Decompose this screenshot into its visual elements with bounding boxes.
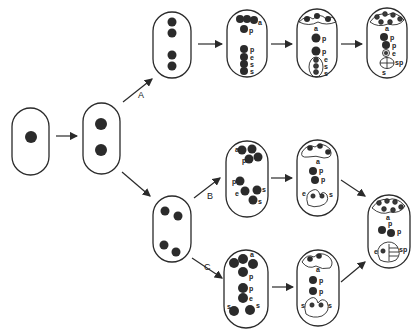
svg-text:s: s <box>324 63 328 70</box>
svg-text:p: p <box>392 42 396 50</box>
stage-two-nucleate <box>83 103 120 174</box>
pathway-label-c: C <box>204 262 211 272</box>
stage-a-four-nucleate <box>153 12 191 78</box>
svg-text:a: a <box>385 25 389 32</box>
stage-b-cellular: a p p e s <box>297 140 338 216</box>
svg-text:a: a <box>250 251 254 258</box>
svg-text:e: e <box>235 190 239 197</box>
arrow-to-bc <box>122 172 150 196</box>
svg-text:s: s <box>250 68 254 75</box>
svg-text:a: a <box>314 25 318 32</box>
svg-text:e: e <box>250 54 254 61</box>
svg-text:s: s <box>250 61 254 68</box>
svg-text:a: a <box>235 146 239 153</box>
stage-bc-four-nucleate <box>153 196 191 262</box>
svg-text:a: a <box>258 19 262 26</box>
stage-a-mature: a p p e sp s <box>367 8 407 78</box>
svg-text:p: p <box>250 46 254 54</box>
svg-text:e: e <box>324 56 328 63</box>
pathway-label-b: B <box>207 191 213 201</box>
svg-text:p: p <box>322 35 326 43</box>
stage-c-eight-nucleate: a p p e s s <box>224 250 268 328</box>
svg-text:e: e <box>302 190 306 197</box>
svg-text:p: p <box>249 273 253 281</box>
svg-text:p: p <box>249 27 253 35</box>
svg-text:p: p <box>242 157 246 165</box>
svg-text:s: s <box>258 198 262 205</box>
svg-text:sp: sp <box>395 59 403 67</box>
svg-text:p: p <box>397 228 401 236</box>
svg-text:s: s <box>262 186 266 193</box>
stage-c-cellular: a p p s s <box>297 250 339 326</box>
svg-text:s: s <box>227 303 231 310</box>
svg-text:e: e <box>392 50 396 57</box>
stage-bc-mature: a p p e sp <box>368 195 410 268</box>
arrow-c-to-mature <box>341 262 365 282</box>
svg-text:a: a <box>316 158 320 165</box>
svg-text:e: e <box>249 295 253 302</box>
stage-one-nucleate <box>12 108 49 175</box>
stage-a-eight-nucleate: a p p e s s <box>227 10 267 77</box>
svg-text:p: p <box>249 285 253 293</box>
stage-b-eight-nucleate: a p p e s s <box>226 141 268 217</box>
svg-text:p: p <box>319 288 323 296</box>
svg-text:p: p <box>321 176 325 184</box>
svg-text:a: a <box>316 266 320 273</box>
svg-text:s: s <box>256 302 260 309</box>
stage-a-cellular: a p p e s s <box>297 9 337 77</box>
svg-text:s: s <box>328 302 332 309</box>
svg-text:e: e <box>374 248 378 255</box>
svg-text:p: p <box>390 34 394 42</box>
svg-text:s: s <box>301 302 305 309</box>
svg-text:p: p <box>322 48 326 56</box>
svg-text:s: s <box>329 191 333 198</box>
svg-text:p: p <box>319 277 323 285</box>
svg-text:p: p <box>319 167 323 175</box>
pathway-label-a: A <box>138 90 144 100</box>
svg-text:s: s <box>382 69 386 76</box>
svg-text:sp: sp <box>399 246 407 254</box>
embryo-sac-diagram: A a p p e s s a p p <box>0 0 413 330</box>
svg-text:p: p <box>388 220 392 228</box>
arrow-b-to-mature <box>341 180 365 196</box>
svg-text:s: s <box>324 70 328 77</box>
svg-text:p: p <box>232 178 236 186</box>
